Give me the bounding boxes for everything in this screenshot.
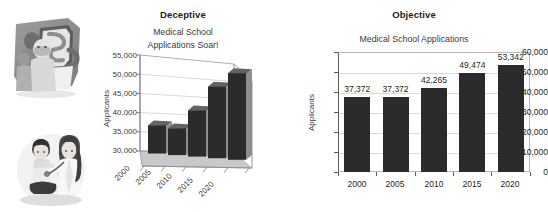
objective-bar-label: 37,372 xyxy=(344,84,370,94)
objective-xtick: 2020 xyxy=(490,179,530,189)
deceptive-plot-area: Applicants 55,000 50,000 45,000 40,000 3… xyxy=(92,52,274,207)
objective-bar-2015: 49,474 xyxy=(459,73,485,172)
checkup-illustration xyxy=(12,124,90,210)
objective-kicker-label: Objective xyxy=(280,9,548,20)
objective-xtick-mark xyxy=(338,172,339,176)
deceptive-chart-title: Medical School Applications Soar! xyxy=(92,26,274,52)
objective-xtick: 2010 xyxy=(414,179,454,189)
objective-bar-group: 37,372 37,372 42,265 49,474 53,342 xyxy=(338,52,530,172)
objective-bar-label: 42,265 xyxy=(421,75,447,85)
objective-bar-2020: 53,342 xyxy=(498,65,524,172)
objective-xtick: 2005 xyxy=(375,179,415,189)
deceptive-bar-2020 xyxy=(228,68,252,160)
deceptive-kicker-label: Deceptive xyxy=(92,9,274,20)
illustration-column xyxy=(0,0,92,212)
objective-bar-2005: 37,372 xyxy=(383,97,409,172)
objective-xtick-mark xyxy=(415,172,416,176)
objective-xtick-mark xyxy=(530,172,531,176)
objective-bar-2010: 42,265 xyxy=(421,88,447,173)
deceptive-chart-panel: Deceptive Medical School Applications So… xyxy=(92,0,274,212)
objective-xtick: 2000 xyxy=(337,179,377,189)
objective-xtick: 2015 xyxy=(452,179,492,189)
objective-xtick-mark xyxy=(376,172,377,176)
objective-chart-panel: Objective Medical School Applications Ap… xyxy=(280,0,548,212)
objective-y-axis-title: Applicants xyxy=(307,78,316,148)
objective-chart-title-line1: Medical School Applications xyxy=(280,33,548,46)
objective-bar-label: 53,342 xyxy=(498,52,524,62)
surgeons-illustration xyxy=(10,14,84,102)
figure-root: Deceptive Medical School Applications So… xyxy=(0,0,548,212)
objective-xtick-mark xyxy=(453,172,454,176)
objective-bar-label: 37,372 xyxy=(383,84,409,94)
objective-bar-label: 49,474 xyxy=(459,60,485,70)
objective-xtick-mark xyxy=(491,172,492,176)
objective-chart-title: Medical School Applications xyxy=(280,33,548,46)
objective-bar-2000: 37,372 xyxy=(344,97,370,172)
objective-plot-area: Applicants 60,000 50,000 40,000 30,000 2… xyxy=(280,46,548,206)
deceptive-chart-title-line1: Medical School xyxy=(92,26,274,39)
